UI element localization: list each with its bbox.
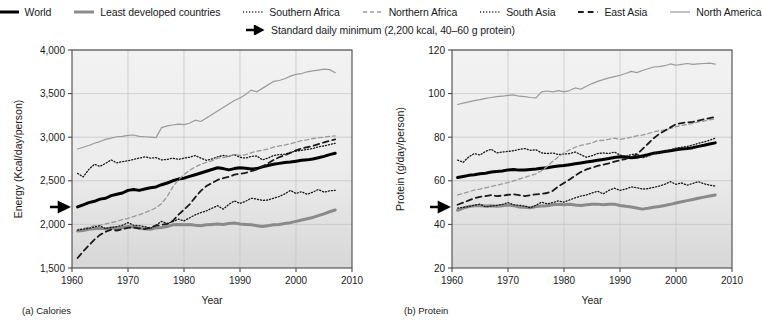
- legend-label-south-asia: South Asia: [506, 6, 555, 18]
- x-axis-tick-label: 2000: [665, 275, 688, 286]
- y-axis-tick-label: 60: [434, 175, 446, 186]
- legend-swatch-southern-africa-icon: [242, 7, 264, 17]
- legend-swatch-east-asia-icon: [577, 7, 599, 17]
- legend-label-east-asia: East Asia: [604, 6, 647, 18]
- legend-swatch-north-america-icon: [669, 7, 691, 17]
- legend-item-south-asia: South Asia: [479, 6, 555, 18]
- y-axis-tick-label: 40: [434, 219, 446, 230]
- legend-swatch-northern-africa-icon: [362, 7, 384, 17]
- legend-item-world: World: [0, 6, 51, 18]
- legend-item-east-asia: East Asia: [577, 6, 647, 18]
- legend-item-standard-daily-minimum: Standard daily minimum (2,200 kcal, 40–6…: [244, 24, 515, 36]
- arrow-marker-icon: [244, 25, 266, 35]
- y-axis-label: Energy (Kcal/day/person): [12, 100, 24, 218]
- legend-swatch-least-developed-countries-icon: [73, 7, 95, 17]
- y-axis-tick-label: 2,000: [40, 219, 65, 230]
- legend-label-world: World: [25, 6, 52, 18]
- chart-calories: 1,5002,0002,5003,0003,5004,0001960197019…: [0, 40, 379, 322]
- standard-daily-minimum-arrow-icon: [50, 203, 68, 212]
- legend-label-north-america: North America: [696, 6, 761, 18]
- y-axis-tick-label: 100: [428, 88, 445, 99]
- legend-row-series: WorldLeast developed countriesSouthern A…: [0, 0, 759, 21]
- plot-background: [452, 50, 732, 268]
- legend-swatch-world-icon: [0, 7, 20, 17]
- y-axis-tick-label: 20: [434, 263, 446, 274]
- y-axis-tick-label: 1,500: [40, 263, 65, 274]
- chart-protein: 20406080100120196019701980199020002010Ye…: [380, 40, 759, 322]
- x-axis-tick-label: 1980: [173, 275, 196, 286]
- chart-legend: WorldLeast developed countriesSouthern A…: [0, 0, 759, 40]
- x-axis-tick-label: 2010: [721, 275, 744, 286]
- legend-label-southern-africa: Southern Africa: [269, 6, 339, 18]
- caption-calories: (a) Calories: [22, 305, 71, 316]
- x-axis-tick-label: 1960: [61, 275, 84, 286]
- y-axis-tick-label: 3,000: [40, 132, 65, 143]
- x-axis-tick-label: 2010: [341, 275, 364, 286]
- y-axis-tick-label: 2,500: [40, 175, 65, 186]
- y-axis-tick-label: 80: [434, 132, 446, 143]
- y-axis-tick-label: 120: [428, 45, 445, 56]
- standard-daily-minimum-arrow-icon: [430, 203, 448, 212]
- legend-item-north-america: North America: [669, 6, 761, 18]
- legend-item-least-developed-countries: Least developed countries: [73, 6, 220, 18]
- y-axis-label: Protein (g/day/person): [394, 107, 406, 211]
- legend-label-least-developed-countries: Least developed countries: [100, 6, 220, 18]
- y-axis-tick-label: 4,000: [40, 45, 65, 56]
- legend-item-northern-africa: Northern Africa: [362, 6, 458, 18]
- y-axis-tick-label: 3,500: [40, 88, 65, 99]
- x-axis-label: Year: [581, 294, 603, 306]
- x-axis-label: Year: [201, 294, 223, 306]
- x-axis-tick-label: 1960: [441, 275, 464, 286]
- x-axis-tick-label: 1970: [117, 275, 140, 286]
- caption-protein: (b) Protein: [404, 305, 448, 316]
- legend-swatch-south-asia-icon: [479, 7, 501, 17]
- x-axis-tick-label: 1990: [609, 275, 632, 286]
- legend-label-northern-africa: Northern Africa: [389, 6, 458, 18]
- x-axis-tick-label: 2000: [285, 275, 308, 286]
- x-axis-tick-label: 1970: [497, 275, 520, 286]
- x-axis-tick-label: 1990: [229, 275, 252, 286]
- x-axis-tick-label: 1980: [553, 275, 576, 286]
- legend-item-southern-africa: Southern Africa: [242, 6, 339, 18]
- legend-row-marker: Standard daily minimum (2,200 kcal, 40–6…: [0, 21, 759, 39]
- legend-label-standard-daily-minimum: Standard daily minimum (2,200 kcal, 40–6…: [271, 24, 515, 36]
